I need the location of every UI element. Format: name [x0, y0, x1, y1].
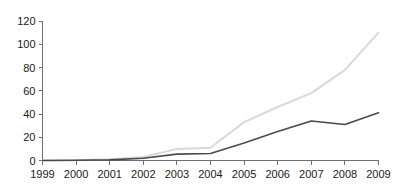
x-tick-label: 2002 [131, 168, 155, 180]
y-tick-label: 40 [23, 108, 35, 120]
x-tick-label: 2000 [64, 168, 88, 180]
x-tick-label: 1999 [30, 168, 54, 180]
x-tick-label: 2004 [198, 168, 222, 180]
y-tick-label: 60 [23, 85, 35, 97]
x-tick-label: 2007 [299, 168, 323, 180]
x-tick-label: 2006 [265, 168, 289, 180]
y-tick-label: 20 [23, 131, 35, 143]
y-tick-label: 80 [23, 62, 35, 74]
x-tick-label: 2009 [366, 168, 390, 180]
line-chart: 020406080100120 199920002001200220032004… [0, 0, 394, 190]
y-tick-label: 0 [29, 155, 35, 167]
y-axis-tick-labels: 020406080100120 [17, 15, 35, 167]
series-lines [43, 33, 379, 161]
x-tick-label: 2005 [232, 168, 256, 180]
series-line-light-gray-series [43, 33, 379, 161]
x-tick-label: 2008 [333, 168, 357, 180]
chart-plot-area: 020406080100120 199920002001200220032004… [0, 0, 394, 190]
series-line-dark-gray-series [43, 113, 379, 161]
x-axis-tick-labels: 1999200020012002200320042005200620072008… [30, 168, 390, 180]
y-tick-label: 100 [17, 38, 35, 50]
x-axis-tick-marks [43, 161, 379, 165]
x-tick-label: 2001 [97, 168, 121, 180]
y-tick-label: 120 [17, 15, 35, 27]
x-tick-label: 2003 [165, 168, 189, 180]
